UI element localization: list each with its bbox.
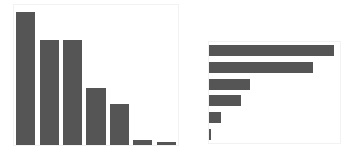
horizontal-bar	[209, 79, 250, 90]
horizontal-bar-chart-panel	[208, 41, 341, 144]
horizontal-bar	[209, 62, 313, 73]
horizontal-bar	[209, 95, 241, 106]
horizontal-bar	[209, 112, 221, 123]
vertical-bar-plot-area	[14, 5, 178, 145]
vertical-bar	[157, 142, 176, 145]
horizontal-bar	[209, 129, 211, 140]
vertical-bar	[86, 88, 105, 145]
vertical-bar	[16, 12, 35, 145]
vertical-bar-chart-panel	[13, 4, 179, 146]
horizontal-bar	[209, 45, 334, 56]
figure-canvas	[0, 0, 354, 158]
horizontal-bar-plot-area	[209, 42, 340, 143]
vertical-bar	[63, 40, 82, 145]
vertical-bar	[40, 40, 59, 145]
vertical-bar	[133, 140, 152, 145]
vertical-bar	[110, 104, 129, 145]
